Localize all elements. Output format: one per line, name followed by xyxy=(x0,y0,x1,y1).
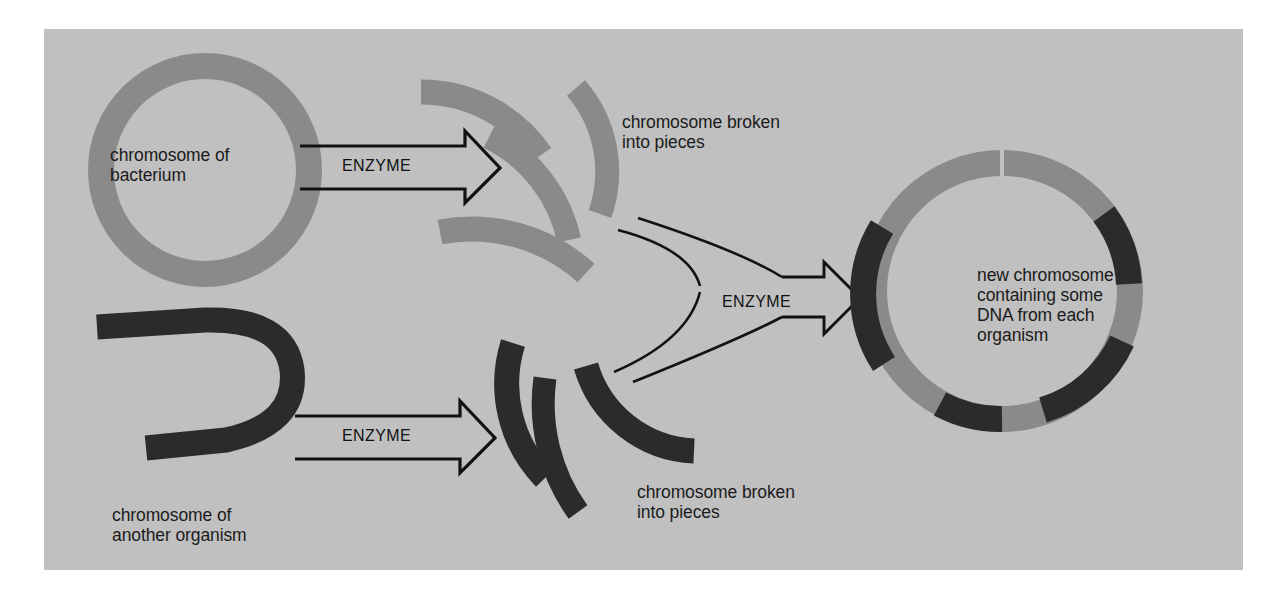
label-new-chromosome: new chromosome containing some DNA from … xyxy=(977,265,1114,345)
gray-fragment-3 xyxy=(576,88,607,214)
dark-fragment-2 xyxy=(543,378,578,512)
merge-line-upper xyxy=(618,230,700,286)
label-other-organism-chromosome: chromosome of another organism xyxy=(112,505,247,545)
label-enzyme-middle: ENZYME xyxy=(722,293,791,311)
recombinant-segment-dark-right-bottom xyxy=(1043,341,1122,410)
recombinant-segment-dark-bottom xyxy=(940,404,1002,419)
label-fragments-bottom: chromosome broken into pieces xyxy=(637,482,795,522)
label-enzyme-top: ENZYME xyxy=(342,157,411,175)
label-bacterium-chromosome: chromosome of bacterium xyxy=(110,145,229,185)
enzyme-arrow-middle xyxy=(782,262,860,334)
label-enzyme-bottom: ENZYME xyxy=(342,427,411,445)
label-fragments-top: chromosome broken into pieces xyxy=(622,112,780,152)
other-organism-chromosome xyxy=(97,320,292,448)
merge-line-upper-inner xyxy=(638,218,782,277)
figure-canvas: chromosome of bacterium chromosome broke… xyxy=(0,0,1283,601)
